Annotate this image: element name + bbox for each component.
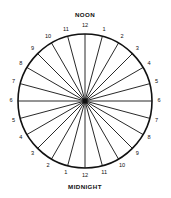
hour-label-7-right: 7 bbox=[155, 117, 158, 123]
hour-label-5-left: 5 bbox=[12, 117, 15, 123]
hour-label-3-right: 3 bbox=[136, 45, 139, 51]
hour-label-5-right: 5 bbox=[155, 78, 158, 84]
hour-label-8-left: 8 bbox=[19, 60, 22, 66]
hour-label-4-right: 4 bbox=[148, 60, 151, 66]
hour-label-7-left: 7 bbox=[12, 78, 15, 84]
hour-label-1-right: 1 bbox=[103, 26, 106, 32]
midnight-label: MIDNIGHT bbox=[68, 183, 102, 190]
dial-center-hub bbox=[83, 99, 87, 103]
clock-dial-svg: NOON 121234567891011121234567891011 MIDN… bbox=[0, 0, 171, 198]
hour-label-9-right: 9 bbox=[136, 150, 139, 156]
hour-label-2-left: 2 bbox=[46, 162, 49, 168]
hour-label-4-left: 4 bbox=[19, 134, 22, 140]
hour-label-12-top: 12 bbox=[82, 22, 88, 28]
hour-label-11-right: 11 bbox=[101, 169, 107, 175]
hour-label-10-left: 10 bbox=[45, 33, 51, 39]
hour-label-11-left: 11 bbox=[63, 26, 69, 32]
hour-label-3-left: 3 bbox=[31, 150, 34, 156]
hour-label-10-right: 10 bbox=[119, 162, 125, 168]
hour-label-1-left: 1 bbox=[64, 169, 67, 175]
hour-label-9-left: 9 bbox=[31, 45, 34, 51]
hour-label-6-left: 6 bbox=[9, 97, 12, 103]
noon-label: NOON bbox=[75, 11, 95, 18]
hour-label-12-bottom: 12 bbox=[82, 172, 88, 178]
hour-label-2-right: 2 bbox=[120, 33, 123, 39]
hour-label-6-right: 6 bbox=[157, 97, 160, 103]
hour-label-8-right: 8 bbox=[148, 134, 151, 140]
clock-dial-figure: NOON 121234567891011121234567891011 MIDN… bbox=[0, 0, 171, 198]
